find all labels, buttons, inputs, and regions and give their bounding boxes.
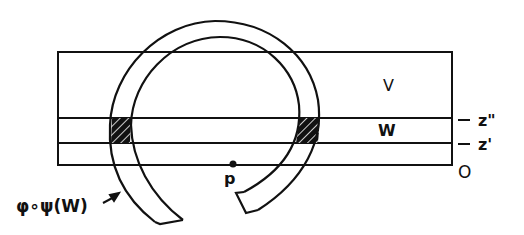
diagram-canvas: V W z" z' O p φ∘ψ(W) <box>0 0 524 235</box>
annotation-arrow <box>103 193 119 203</box>
origin-label: O <box>458 162 471 182</box>
hatched-regions <box>111 118 320 143</box>
level-label-z-double-prime: z" <box>478 111 496 130</box>
point-p-dot <box>230 161 237 168</box>
level-label-z-prime: z' <box>478 135 492 154</box>
point-label-p: p <box>224 169 235 188</box>
band-left-cap <box>155 220 183 224</box>
region-label-v: V <box>383 76 394 95</box>
band-inner-edge <box>131 37 299 220</box>
annotation-label: φ∘ψ(W) <box>16 196 88 216</box>
band-right-cap <box>236 192 258 213</box>
region-label-w: W <box>378 121 396 140</box>
level-ticks <box>458 120 470 144</box>
strip-rectangle <box>58 52 452 165</box>
hatched-region-left <box>111 118 131 143</box>
